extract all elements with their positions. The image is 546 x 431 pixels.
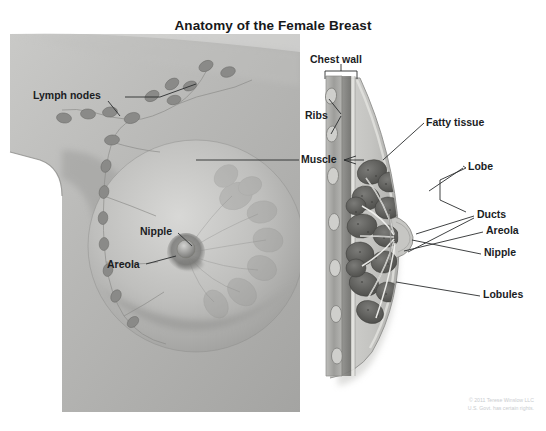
label-fatty-tissue: Fatty tissue <box>426 117 484 128</box>
copyright-line-1: © 2011 Terese Winslow LLC <box>468 397 534 405</box>
leader-areola-right <box>404 232 483 251</box>
label-lobe: Lobe <box>468 161 493 172</box>
leader-fatty-tissue <box>383 123 424 160</box>
label-nipple-left: Nipple <box>140 226 172 237</box>
leader-lobe <box>429 168 463 191</box>
label-chest-wall: Chest wall <box>310 54 362 65</box>
label-lobules: Lobules <box>483 289 523 300</box>
leader-ducts-1 <box>416 216 474 234</box>
label-areola-left: Areola <box>107 259 140 270</box>
copyright-line-2: U.S. Govt. has certain rights. <box>468 405 534 413</box>
leader-lobules <box>396 282 480 296</box>
label-ribs: Ribs <box>305 110 328 121</box>
anatomy-figure: Anatomy of the Female Breast <box>0 0 546 431</box>
label-nipple-right: Nipple <box>484 247 516 258</box>
label-lymph-nodes: Lymph nodes <box>33 90 101 101</box>
leader-ducts-2 <box>408 218 474 252</box>
label-muscle: Muscle <box>301 154 337 165</box>
anatomy-illustration <box>0 0 546 431</box>
label-ducts: Ducts <box>477 209 506 220</box>
copyright-notice: © 2011 Terese Winslow LLC U.S. Govt. has… <box>468 397 534 413</box>
label-areola-right: Areola <box>486 225 519 236</box>
